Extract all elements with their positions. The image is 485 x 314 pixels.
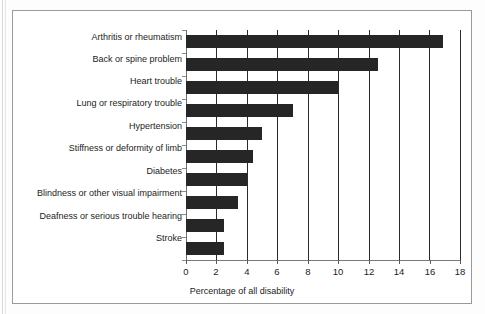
- category-label: Back or spine problem: [92, 54, 182, 64]
- category-label: Diabetes: [146, 166, 182, 176]
- x-axis-tick: [186, 260, 187, 264]
- x-tick-label: 12: [359, 266, 379, 277]
- x-axis-tick: [430, 260, 431, 264]
- bar: [186, 219, 224, 232]
- gridline-14: [399, 30, 400, 260]
- x-axis-line: [186, 260, 461, 261]
- category-label: Stiffness or deformity of limb: [69, 143, 182, 153]
- plot-area: [186, 30, 460, 260]
- x-axis-tick: [338, 260, 339, 264]
- scan-edge-line-secondary: [5, 0, 6, 314]
- category-label: Heart trouble: [130, 76, 182, 86]
- x-tick-label: 16: [420, 266, 440, 277]
- category-label: Arthritis or rheumatism: [91, 32, 182, 42]
- x-tick-label: 14: [389, 266, 409, 277]
- bar: [186, 104, 293, 117]
- x-tick-label: 4: [237, 266, 257, 277]
- x-tick-label: 0: [176, 266, 196, 277]
- category-label: Lung or respiratory trouble: [76, 98, 182, 108]
- x-tick-label: 8: [298, 266, 318, 277]
- scan-edge-line: [2, 0, 3, 314]
- category-label: Stroke: [156, 233, 182, 243]
- category-label: Deafness or serious trouble hearing: [39, 211, 182, 221]
- bar: [186, 58, 378, 71]
- category-label: Blindness or other visual impairment: [37, 188, 182, 198]
- x-tick-label: 10: [328, 266, 348, 277]
- gridline-18: [460, 30, 461, 260]
- bar: [186, 150, 253, 163]
- x-axis-tick: [399, 260, 400, 264]
- x-axis-title: Percentage of all disability: [12, 286, 472, 296]
- gridline-16: [429, 30, 430, 260]
- x-axis-tick: [308, 260, 309, 264]
- x-axis-tick: [369, 260, 370, 264]
- bar: [186, 127, 262, 140]
- x-axis-tick: [247, 260, 248, 264]
- bar: [186, 173, 247, 186]
- chart-figure: Arthritis or rheumatism Back or spine pr…: [0, 0, 485, 314]
- x-axis-tick: [460, 260, 461, 264]
- bar: [186, 196, 238, 209]
- x-axis-tick: [216, 260, 217, 264]
- x-tick-label: 2: [206, 266, 226, 277]
- bar: [186, 35, 443, 48]
- x-tick-label: 6: [267, 266, 287, 277]
- category-label: Hypertension: [129, 121, 182, 131]
- x-axis-tick: [277, 260, 278, 264]
- bar: [186, 242, 224, 255]
- bar: [186, 81, 338, 94]
- x-tick-label: 18: [450, 266, 470, 277]
- category-axis-labels: Arthritis or rheumatism Back or spine pr…: [20, 30, 182, 260]
